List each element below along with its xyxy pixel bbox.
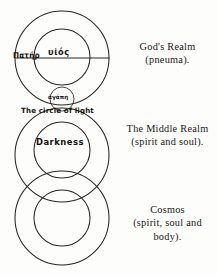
label-huios: υἱός xyxy=(48,47,70,57)
label-darkness: Darkness xyxy=(36,137,84,147)
caption-gods-realm: God's Realm (pneuma). xyxy=(118,40,217,67)
concentric-circles-diagram: Πατήρ υἱός ἀγάπη The circle of light Dar… xyxy=(0,0,120,277)
label-agape: ἀγάπη xyxy=(48,94,68,100)
caption-middle-realm: The Middle Realm (spirit and soul). xyxy=(118,122,217,149)
caption-line: (spirit and soul). xyxy=(118,135,217,148)
caption-line: body). xyxy=(118,230,217,243)
diagram-page: Πατήρ υἱός ἀγάπη The circle of light Dar… xyxy=(0,0,217,277)
label-circle-of-light: The circle of light xyxy=(21,106,94,115)
middle-realm-inner-circle xyxy=(34,122,90,178)
gods-realm-inner-circle xyxy=(34,29,90,85)
cosmos-outer-circle xyxy=(15,171,109,265)
caption-line: (spirit, soul and xyxy=(118,216,217,229)
caption-line: Cosmos xyxy=(118,203,217,216)
caption-line: (pneuma). xyxy=(118,53,217,66)
caption-line: The Middle Realm xyxy=(118,122,217,135)
caption-line: God's Realm xyxy=(118,40,217,53)
caption-column: God's Realm (pneuma). The Middle Realm (… xyxy=(118,0,217,277)
cosmos-inner-circle xyxy=(34,190,90,246)
caption-cosmos: Cosmos (spirit, soul and body). xyxy=(118,203,217,243)
label-pater: Πατήρ xyxy=(13,50,40,60)
